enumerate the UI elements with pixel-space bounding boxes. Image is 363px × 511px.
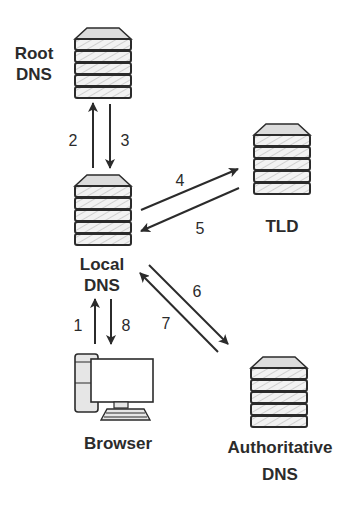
step-label-6: 6 bbox=[193, 283, 202, 301]
browser-label: Browser bbox=[84, 433, 152, 454]
root-dns-label: Root DNS bbox=[15, 43, 54, 85]
browser-label-line1: Browser bbox=[84, 433, 152, 454]
local-dns-label-line1: Local bbox=[80, 254, 124, 275]
local-dns-server-icon bbox=[75, 175, 131, 245]
local-dns-label-line2: DNS bbox=[80, 275, 124, 296]
authoritative-dns-label-line1: Authoritative bbox=[228, 437, 333, 458]
step-label-2: 2 bbox=[69, 132, 78, 150]
desktop-computer-icon bbox=[75, 354, 153, 420]
authoritative-dns-label-line2: DNS bbox=[228, 464, 333, 485]
tld-label-line1: TLD bbox=[265, 216, 298, 237]
step-label-8: 8 bbox=[122, 317, 131, 335]
step-label-1: 1 bbox=[74, 317, 83, 335]
step-label-3: 3 bbox=[121, 132, 130, 150]
root-dns-server-icon bbox=[75, 28, 131, 98]
arrow-step-4 bbox=[141, 169, 238, 210]
arrow-step-7 bbox=[140, 273, 218, 352]
dns-resolution-diagram: Root DNS Local DNS TLD Authoritative DNS… bbox=[0, 0, 363, 511]
authoritative-dns-label: Authoritative DNS bbox=[228, 437, 333, 485]
local-dns-label: Local DNS bbox=[80, 254, 124, 296]
tld-server-icon bbox=[254, 124, 310, 194]
root-dns-label-line1: Root bbox=[15, 43, 54, 64]
step-label-7: 7 bbox=[162, 315, 171, 333]
step-label-4: 4 bbox=[176, 172, 185, 190]
step-label-5: 5 bbox=[196, 220, 205, 238]
tld-label: TLD bbox=[265, 216, 298, 237]
arrow-step-5 bbox=[141, 188, 239, 231]
diagram-canvas bbox=[0, 0, 363, 511]
root-dns-label-line2: DNS bbox=[15, 64, 54, 85]
authoritative-dns-server-icon bbox=[251, 357, 307, 427]
